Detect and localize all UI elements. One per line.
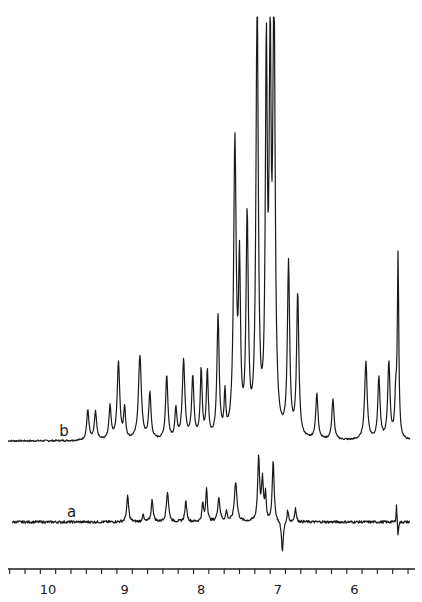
trace-label-a: a — [67, 503, 76, 521]
spectrum-trace-b — [8, 17, 410, 442]
x-axis-tick-labels: 109876 — [40, 582, 359, 597]
x-tick-label: 9 — [120, 582, 128, 597]
x-tick-label: 8 — [197, 582, 205, 597]
trace-label-b: b — [59, 422, 69, 440]
x-axis: 109876 — [8, 569, 415, 597]
x-tick-label: 6 — [350, 582, 358, 597]
x-tick-label: 7 — [274, 582, 282, 597]
x-tick-label: 10 — [40, 582, 57, 597]
x-axis-ticks — [10, 569, 408, 574]
nmr-spectrum-chart: b a 109876 — [0, 0, 422, 602]
